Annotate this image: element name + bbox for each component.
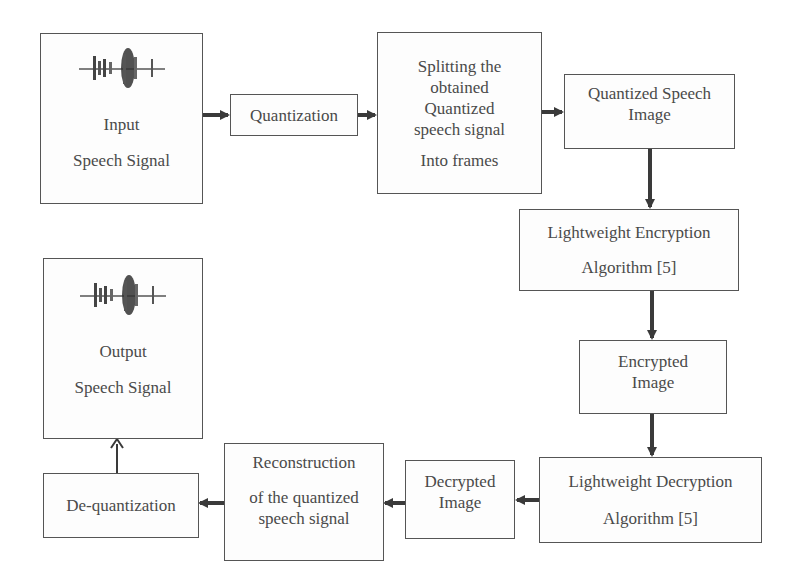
reconstruction-box: Reconstruction of the quantized speech s… [224,443,384,561]
reconstruction-label-line2: of the quantized [249,487,359,508]
input-label-line1: Input [104,114,140,135]
quantized-image-label-line1: Quantized Speech [588,83,711,104]
encryption-label-line2: Algorithm [5] [582,257,677,278]
quantization-box: Quantization [230,94,358,136]
splitting-label-line4: speech signal [414,119,505,140]
quantized-speech-image-box: Quantized Speech Image [564,74,735,149]
splitting-label-line5: Into frames [421,150,499,171]
splitting-label-line2: obtained [430,77,489,98]
lightweight-encryption-box: Lightweight Encryption Algorithm [5] [519,209,739,291]
dequantization-box: De-quantization [43,473,199,538]
output-label-line1: Output [99,341,146,362]
splitting-frames-box: Splitting the obtained Quantized speech … [377,32,542,194]
speech-waveform-icon [78,271,168,321]
reconstruction-label-line1: Reconstruction [253,452,356,473]
encrypted-image-label-line1: Encrypted [618,351,688,372]
dequantization-label: De-quantization [66,495,176,516]
decrypted-image-label-line1: Decrypted [425,471,496,492]
input-speech-signal-box: Input Speech Signal [40,33,203,204]
splitting-label-line1: Splitting the [418,56,502,77]
decryption-label-line1: Lightweight Decryption [569,471,733,492]
decrypted-image-box: Decrypted Image [405,460,515,539]
encrypted-image-box: Encrypted Image [579,340,727,414]
reconstruction-label-line3: speech signal [258,508,349,529]
lightweight-decryption-box: Lightweight Decryption Algorithm [5] [539,457,762,543]
output-label-line2: Speech Signal [75,377,172,398]
speech-waveform-icon [77,44,167,94]
input-label-line2: Speech Signal [73,150,170,171]
quantization-label: Quantization [250,105,338,126]
encrypted-image-label-line2: Image [632,372,674,393]
quantized-image-label-line2: Image [628,104,670,125]
decrypted-image-label-line2: Image [439,492,481,513]
splitting-label-line3: Quantized [425,98,495,119]
decryption-label-line2: Algorithm [5] [603,508,698,529]
encryption-label-line1: Lightweight Encryption [548,222,711,243]
output-speech-signal-box: Output Speech Signal [43,258,203,439]
